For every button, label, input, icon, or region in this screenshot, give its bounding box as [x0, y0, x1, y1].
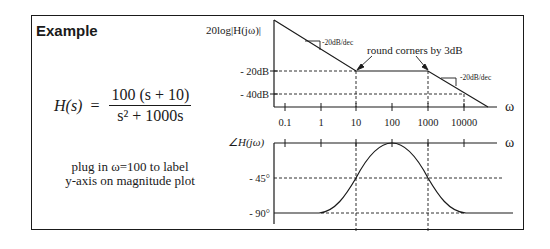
- ytick-90deg: - 90°: [249, 208, 270, 219]
- magnitude-ylabel: 20log|H(jω)|: [206, 24, 261, 37]
- ytick-20db: - 20dB: [240, 66, 269, 77]
- slope-label-2: -20dB/dec: [460, 73, 492, 82]
- slope-label-1: -20dB/dec: [322, 38, 354, 47]
- phase-xlabel: ω: [505, 135, 514, 150]
- xtick-100: 100: [384, 117, 400, 128]
- magnitude-plot: 20log|H(jω)| - 20dB - 40dB ω 0.1 1 10 10…: [206, 20, 514, 128]
- ytick-45deg: - 45°: [249, 173, 270, 184]
- magnitude-xlabel: ω: [505, 99, 514, 114]
- xtick-1: 1: [318, 117, 323, 128]
- ytick-40db: - 40dB: [240, 89, 269, 100]
- xtick-10000: 10000: [451, 117, 477, 128]
- bode-plots: 20log|H(jω)| - 20dB - 40dB ω 0.1 1 10 10…: [0, 0, 550, 249]
- xtick-1000: 1000: [418, 117, 439, 128]
- phase-ylabel: ∠H(jω): [228, 136, 264, 149]
- phase-plot: ∠H(jω) ω - 45° - 90°: [228, 135, 514, 232]
- round-corners-annotation: round corners by 3dB: [367, 44, 463, 56]
- xtick-0.1: 0.1: [278, 117, 291, 128]
- xtick-10: 10: [351, 117, 362, 128]
